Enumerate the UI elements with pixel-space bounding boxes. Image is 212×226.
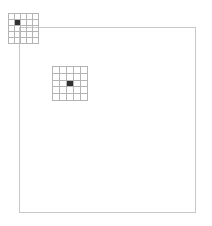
figure-canvas <box>0 0 212 226</box>
kernel-window-top-left-cell <box>33 38 39 44</box>
kernel-window-center-cell <box>74 81 81 88</box>
kernel-window-center-cell <box>67 94 74 101</box>
kernel-window-center-cell <box>81 87 88 94</box>
kernel-window-center-cell <box>53 87 60 94</box>
kernel-window-center-cell <box>67 87 74 94</box>
kernel-window-center-cell <box>74 74 81 81</box>
kernel-window-center-cell <box>60 87 67 94</box>
kernel-window-center-cell <box>60 67 67 74</box>
kernel-window-center-cell <box>67 74 74 81</box>
kernel-window-center-cell <box>53 94 60 101</box>
kernel-window-center-cell <box>81 81 88 88</box>
kernel-window-center-cell <box>60 74 67 81</box>
kernel-window-center-cell <box>60 94 67 101</box>
kernel-window-center-cell <box>53 67 60 74</box>
kernel-window-top-left <box>8 13 39 44</box>
kernel-window-center-cell <box>60 81 67 88</box>
kernel-window-center-cell <box>53 74 60 81</box>
kernel-window-center-cell <box>53 81 60 88</box>
feature-map-frame <box>19 27 196 213</box>
kernel-window-center-cell <box>74 94 81 101</box>
kernel-window-center-cell <box>67 67 74 74</box>
kernel-window-center-cell <box>74 87 81 94</box>
kernel-window-center-cell <box>81 94 88 101</box>
kernel-window-center-cell <box>74 67 81 74</box>
kernel-window-center-active-cell <box>67 81 74 88</box>
kernel-window-center <box>52 66 88 101</box>
kernel-window-center-cell <box>81 74 88 81</box>
kernel-window-center-cell <box>81 67 88 74</box>
